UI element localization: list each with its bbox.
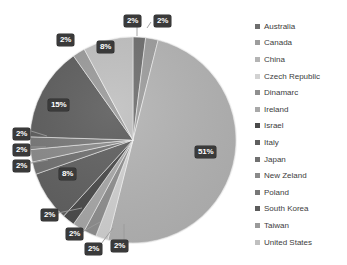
pie-data-label: 8%: [59, 168, 76, 180]
legend-color-swatch-icon: [255, 24, 260, 29]
legend-color-swatch-icon: [255, 74, 260, 79]
chart-legend: AustraliaCanadaChinaCzech RepublicDinama…: [255, 18, 347, 250]
pie-data-label: 2%: [13, 144, 30, 156]
legend-color-swatch-icon: [255, 90, 260, 95]
pie-data-label: 2%: [124, 15, 141, 27]
legend-item-label: Australia: [264, 22, 295, 31]
legend-item[interactable]: United States: [255, 234, 347, 251]
legend-item[interactable]: Canada: [255, 35, 347, 52]
legend-color-swatch-icon: [255, 190, 260, 195]
legend-color-swatch-icon: [255, 157, 260, 162]
pie-data-label: 2%: [111, 240, 128, 252]
legend-item-label: China: [264, 55, 285, 64]
leader-line: [147, 22, 151, 28]
legend-item[interactable]: Ireland: [255, 101, 347, 118]
legend-item[interactable]: Czech Republic: [255, 68, 347, 85]
legend-item-label: Japan: [264, 155, 286, 164]
legend-item-label: Canada: [264, 38, 292, 47]
legend-item[interactable]: Poland: [255, 184, 347, 201]
legend-color-swatch-icon: [255, 173, 260, 178]
legend-item[interactable]: Israel: [255, 118, 347, 135]
pie-data-label: 2%: [66, 228, 83, 240]
pie-data-label: 2%: [41, 209, 58, 221]
legend-color-swatch-icon: [255, 107, 260, 112]
legend-item-label: Italy: [264, 138, 279, 147]
legend-item[interactable]: Italy: [255, 134, 347, 151]
pie-data-label: 2%: [57, 34, 74, 46]
legend-item[interactable]: South Korea: [255, 201, 347, 218]
pie-data-label: 2%: [13, 160, 30, 172]
legend-item[interactable]: Taiwan: [255, 217, 347, 234]
pie-data-label: 15%: [48, 99, 69, 111]
legend-item[interactable]: Japan: [255, 151, 347, 168]
pie-data-label: 51%: [195, 146, 216, 158]
legend-item-label: Dinamarc: [264, 88, 298, 97]
legend-item[interactable]: New Zeland: [255, 167, 347, 184]
legend-color-swatch-icon: [255, 40, 260, 45]
legend-color-swatch-icon: [255, 223, 260, 228]
legend-color-swatch-icon: [255, 206, 260, 211]
legend-item-label: South Korea: [264, 204, 308, 213]
legend-color-swatch-icon: [255, 123, 260, 128]
legend-item-label: Ireland: [264, 105, 288, 114]
legend-item-label: Israel: [264, 121, 284, 130]
legend-item[interactable]: Australia: [255, 18, 347, 35]
legend-item-label: Taiwan: [264, 221, 289, 230]
legend-color-swatch-icon: [255, 57, 260, 62]
legend-item[interactable]: China: [255, 51, 347, 68]
pie-plot-area: 2%2%51%2%2%2%2%8%2%2%2%15%2%8%: [0, 0, 250, 265]
pie-data-label: 2%: [85, 243, 102, 255]
legend-item-label: Czech Republic: [264, 72, 320, 81]
legend-color-swatch-icon: [255, 240, 260, 245]
legend-item-label: New Zeland: [264, 171, 307, 180]
pie-data-label: 8%: [97, 41, 114, 53]
pie-data-label: 2%: [13, 128, 30, 140]
pie-data-label: 2%: [154, 15, 171, 27]
pie-chart-figure: 2%2%51%2%2%2%2%8%2%2%2%15%2%8% Australia…: [0, 0, 347, 265]
pie-svg: [0, 0, 250, 265]
legend-color-swatch-icon: [255, 140, 260, 145]
legend-item[interactable]: Dinamarc: [255, 84, 347, 101]
legend-item-label: Poland: [264, 188, 289, 197]
legend-item-label: United States: [264, 238, 312, 247]
